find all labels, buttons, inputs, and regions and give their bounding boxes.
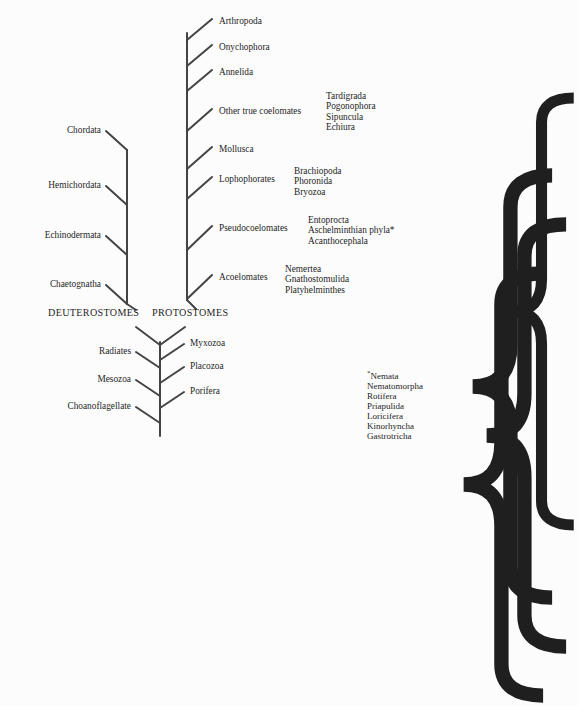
footnote-item: Gastrotricha xyxy=(367,431,423,441)
branch-protostome-4 xyxy=(187,147,212,169)
taxon-label-other-true-coelomates: Other true coelomates xyxy=(219,106,301,116)
branch-protostome-7 xyxy=(187,275,212,299)
group-member: Brachiopoda xyxy=(294,166,342,176)
branch-basal-left-1 xyxy=(136,380,160,396)
group-member: Aschelminthian phyla* xyxy=(308,225,395,235)
group-member: Acanthocephala xyxy=(308,236,395,246)
taxon-label-mesozoa: Mesozoa xyxy=(97,374,131,384)
v-junction-right xyxy=(160,327,185,345)
taxon-label-pseudocoelomates: Pseudocoelomates xyxy=(219,223,288,233)
branch-protostome-6 xyxy=(187,226,212,250)
acoelomates-group-members: NemerteaGnathostomulidaPlatyhelminthes xyxy=(285,264,349,295)
branch-protostome-0 xyxy=(187,19,212,40)
footnote-item: Rotifera xyxy=(367,391,423,401)
branch-protostome-1 xyxy=(187,45,212,66)
footnote-item: Priapulida xyxy=(367,401,423,411)
group-member: Bryozoa xyxy=(294,187,342,197)
taxon-label-chordata: Chordata xyxy=(67,125,101,135)
footnote-item: *Nemata xyxy=(367,368,423,381)
taxon-label-arthropoda: Arthropoda xyxy=(219,16,262,26)
taxon-label-mollusca: Mollusca xyxy=(219,144,254,154)
other-true-coelomates-group-members: TardigradaPogonophoraSipunculaEchiura xyxy=(326,91,376,133)
taxon-label-radiates: Radiates xyxy=(99,346,131,356)
footnote-item: Loricifera xyxy=(367,411,423,421)
group-member: Gnathostomulida xyxy=(285,274,349,284)
group-member: Phoronida xyxy=(294,176,342,186)
group-member: Tardigrada xyxy=(326,91,376,101)
taxon-label-lophophorates: Lophophorates xyxy=(219,174,275,184)
branch-protostome-2 xyxy=(187,70,212,91)
taxon-label-onychophora: Onychophora xyxy=(219,42,270,52)
group-member: Sipuncula xyxy=(326,112,376,122)
branch-protostome-3 xyxy=(187,109,212,131)
group-member: Nemertea xyxy=(285,264,349,274)
group-member: Pogonophora xyxy=(326,101,376,111)
taxon-label-echinodermata: Echinodermata xyxy=(45,230,101,240)
branch-deuterostome-2 xyxy=(106,236,127,255)
pseudocoelomates-group-members: EntoproctaAschelminthian phyla*Acanthoce… xyxy=(308,215,395,246)
brace-glyph xyxy=(464,273,543,695)
branch-basal-right-1 xyxy=(160,367,184,383)
branch-deuterostome-0 xyxy=(106,131,127,150)
taxon-label-hemichordata: Hemichordata xyxy=(48,180,101,190)
branch-basal-right-2 xyxy=(160,392,184,408)
acoelomates-group-brace xyxy=(277,263,578,706)
taxon-label-porifera: Porifera xyxy=(190,386,220,396)
taxon-label-annelida: Annelida xyxy=(219,67,253,77)
taxon-label-placozoa: Placozoa xyxy=(190,361,224,371)
branch-protostome-5 xyxy=(187,177,212,199)
v-junction-left xyxy=(136,327,160,345)
lophophorates-group-members: BrachiopodaPhoronidaBryozoa xyxy=(294,166,342,197)
taxon-label-myxozoa: Myxozoa xyxy=(190,338,225,348)
footnote-item: Nematomorpha xyxy=(367,381,423,391)
group-member: Platyhelminthes xyxy=(285,285,349,295)
group-member: Entoprocta xyxy=(308,215,395,225)
branch-deuterostome-3 xyxy=(106,285,127,304)
taxon-label-acoelomates: Acoelomates xyxy=(219,272,268,282)
deuterostomes-caption: DEUTEROSTOMES xyxy=(48,308,139,318)
taxon-label-choanoflagellate: Choanoflagellate xyxy=(67,401,131,411)
protostomes-caption: PROTOSTOMES xyxy=(152,308,228,318)
branch-basal-right-0 xyxy=(160,344,184,360)
branch-basal-left-2 xyxy=(136,407,160,423)
group-member: Echiura xyxy=(326,122,376,132)
footnote-asterisk: * xyxy=(367,369,371,377)
branch-deuterostome-1 xyxy=(106,186,127,205)
branch-basal-left-0 xyxy=(136,352,160,368)
footnote-list: *NemataNematomorphaRotiferaPriapulidaLor… xyxy=(367,368,423,441)
taxon-label-chaetognatha: Chaetognatha xyxy=(50,279,101,289)
footnote-item: Kinorhyncha xyxy=(367,421,423,431)
